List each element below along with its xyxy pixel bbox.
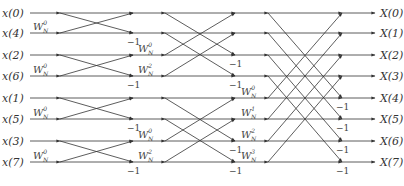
minus-one-label: −1 (336, 123, 349, 133)
twiddle-factor-s2: W2N (138, 148, 154, 163)
minus-one-label: −1 (229, 59, 242, 69)
twiddle-factor-s2: W2N (138, 62, 154, 77)
twiddle-factor-s3: W0N (241, 84, 257, 99)
twiddle-factor-s1: W0N (33, 62, 49, 77)
minus-one-label: −1 (336, 102, 349, 112)
output-label: X(2) (379, 49, 403, 62)
twiddle-factor-s3: W2N (241, 127, 257, 142)
minus-one-label: −1 (229, 80, 242, 90)
twiddle-factor-s2: W0N (138, 127, 154, 142)
minus-one-label: −1 (127, 37, 140, 47)
output-label: X(1) (379, 27, 403, 40)
input-label: x(2) (2, 49, 24, 62)
minus-one-label: −1 (127, 166, 140, 176)
input-label: x(6) (2, 70, 24, 83)
output-label: X(0) (379, 7, 403, 20)
fft-butterfly-diagram: x(0)x(4)x(2)x(6)x(1)x(5)x(3)x(7)X(0)X(1)… (0, 0, 404, 186)
input-label: x(5) (2, 113, 24, 126)
input-label: x(1) (2, 92, 24, 105)
twiddle-factor-s2: W0N (138, 41, 154, 56)
output-label: X(5) (379, 113, 403, 126)
input-label: x(3) (2, 135, 24, 148)
output-label: X(4) (379, 92, 403, 105)
twiddle-factor-s3: W3N (241, 148, 257, 163)
output-label: X(7) (379, 156, 403, 169)
output-label: X(6) (379, 135, 403, 148)
twiddle-factor-s1: W0N (33, 148, 49, 163)
signal-flow-lines (30, 13, 375, 162)
minus-one-label: −1 (336, 145, 349, 155)
twiddle-factor-s3: W1N (241, 105, 257, 120)
minus-one-label: −1 (127, 123, 140, 133)
twiddle-factor-s1: W0N (33, 105, 49, 120)
minus-one-label: −1 (229, 166, 242, 176)
input-label: x(4) (2, 27, 24, 40)
minus-one-label: −1 (336, 166, 349, 176)
input-label: x(7) (2, 156, 24, 169)
minus-one-label: −1 (229, 145, 242, 155)
minus-one-label: −1 (127, 80, 140, 90)
input-label: x(0) (2, 7, 24, 20)
output-label: X(3) (379, 70, 403, 83)
twiddle-factor-s1: W0N (33, 19, 49, 34)
